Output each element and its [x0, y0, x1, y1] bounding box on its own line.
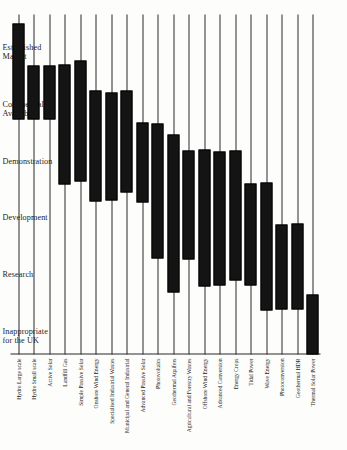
category-tick-label: Geothermal Aquifers: [170, 358, 176, 405]
range-bar: [27, 65, 39, 119]
category-tick-label: Tidal Power: [247, 358, 253, 385]
range-bar: [12, 23, 24, 119]
range-bar: [74, 60, 86, 181]
category-tick-label: Thermal Solar Power: [309, 358, 315, 406]
range-bar: [260, 182, 272, 310]
range-bar: [306, 295, 318, 355]
range-bar: [229, 150, 241, 280]
range-bar: [89, 91, 101, 202]
category-tick-label: Photoconversion: [278, 358, 284, 396]
plot-area: [10, 14, 320, 354]
category-tick-label: Onshore Wind Energy: [92, 358, 98, 408]
range-bar: [58, 64, 70, 184]
category-tick-label: Offshore Wind Energy: [201, 358, 207, 409]
chart-canvas: Inappropriatefor the UKResearchDevelopme…: [0, 0, 347, 450]
category-tick-label: Agricultural and Forestry Wastes: [185, 358, 191, 432]
range-bar: [151, 123, 163, 258]
category-tick-label: Energy Crops: [232, 358, 238, 389]
range-bar: [198, 149, 210, 286]
range-bar: [167, 134, 179, 292]
category-tick-label: Simple Passive Solar: [77, 358, 83, 405]
range-bar: [136, 122, 148, 202]
category-tick-label: Municipal and General Industrial: [123, 358, 129, 432]
category-tick-label: Active Solar: [46, 358, 52, 386]
category-tick-label: Hydro Large scale: [15, 358, 21, 399]
rotated-chart-group: Inappropriatefor the UKResearchDevelopme…: [0, 0, 347, 450]
category-tick-label: Geothermal HDR: [294, 358, 300, 398]
category-tick-label: Photovoltaics: [154, 358, 160, 388]
category-tick-label: Advanced Conversion: [216, 358, 222, 408]
category-tick-label: Wave Energy: [263, 358, 269, 388]
range-bar: [120, 90, 132, 193]
category-tick-label: Specialised Industrial Wastes: [108, 358, 114, 423]
range-bar: [213, 151, 225, 285]
range-bar: [291, 223, 303, 309]
range-bar: [105, 92, 117, 200]
range-bar: [182, 150, 194, 259]
range-bar: [275, 224, 287, 309]
category-tick-label: Advanced Passive Solar: [139, 358, 145, 412]
range-bar: [244, 183, 256, 285]
category-tick-label: Landfill Gas: [61, 358, 67, 386]
category-tick-label: Hydro Small scale: [30, 358, 36, 399]
range-bar: [43, 65, 55, 119]
category-baseline-axis: [10, 353, 320, 354]
